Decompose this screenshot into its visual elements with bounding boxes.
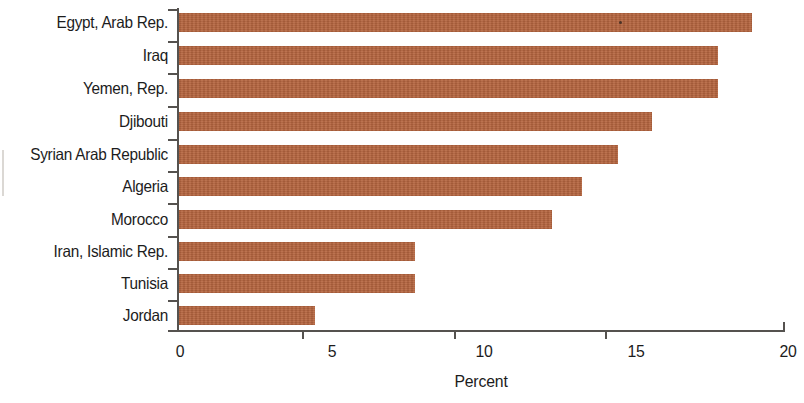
y-axis-tick bbox=[168, 268, 178, 270]
y-axis-tick bbox=[168, 300, 178, 302]
y-axis-tick bbox=[168, 73, 178, 75]
category-label: Algeria bbox=[12, 177, 168, 196]
y-axis-tick bbox=[168, 106, 178, 108]
y-axis-tick bbox=[168, 9, 178, 11]
bar-syrian-arab-republic bbox=[179, 145, 618, 164]
category-label: Morocco bbox=[12, 210, 168, 229]
x-axis-tick bbox=[454, 330, 456, 339]
scan-speck bbox=[619, 21, 622, 24]
x-axis-tick-label: 0 bbox=[176, 342, 185, 362]
plot-area: Egypt, Arab Rep. Iraq Yemen, Rep. Djibou… bbox=[0, 0, 804, 403]
category-label: Yemen, Rep. bbox=[12, 79, 168, 98]
bar-morocco bbox=[179, 210, 552, 229]
bar-iran-islamic-rep bbox=[179, 242, 415, 261]
x-axis-tick bbox=[302, 330, 304, 339]
x-axis-tick-label: 15 bbox=[627, 342, 644, 362]
bar-iraq bbox=[179, 46, 718, 65]
bar-yemen-rep bbox=[179, 79, 718, 98]
bar-chart: Egypt, Arab Rep. Iraq Yemen, Rep. Djibou… bbox=[0, 0, 804, 403]
category-label: Tunisia bbox=[12, 274, 168, 293]
category-label: Iran, Islamic Rep. bbox=[12, 242, 168, 261]
bar-jordan bbox=[179, 306, 315, 325]
category-label: Jordan bbox=[12, 306, 168, 325]
bar-egypt-arab-rep bbox=[179, 13, 752, 32]
x-axis-line bbox=[177, 330, 785, 332]
bar-djibouti bbox=[179, 112, 652, 131]
category-label: Djibouti bbox=[12, 112, 168, 131]
category-label: Egypt, Arab Rep. bbox=[12, 13, 168, 32]
x-axis-tick bbox=[605, 330, 607, 339]
x-axis-title: Percent bbox=[454, 372, 507, 392]
x-axis-tick-label: 5 bbox=[328, 342, 337, 362]
x-axis-tick bbox=[783, 322, 785, 331]
x-axis-tick bbox=[177, 322, 179, 331]
y-axis-tick bbox=[168, 236, 178, 238]
category-axis-labels: Egypt, Arab Rep. Iraq Yemen, Rep. Djibou… bbox=[0, 0, 168, 330]
bar-tunisia bbox=[179, 274, 415, 293]
y-axis-tick bbox=[168, 203, 178, 205]
y-axis-tick bbox=[168, 41, 178, 43]
category-label: Iraq bbox=[12, 46, 168, 65]
x-axis-tick-label: 20 bbox=[779, 342, 796, 362]
category-label: Syrian Arab Republic bbox=[12, 145, 168, 164]
y-axis-tick bbox=[168, 139, 178, 141]
bar-algeria bbox=[179, 177, 582, 196]
x-axis-tick-label: 10 bbox=[475, 342, 492, 362]
y-axis-tick bbox=[168, 171, 178, 173]
